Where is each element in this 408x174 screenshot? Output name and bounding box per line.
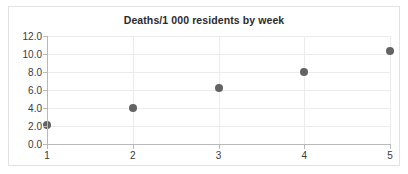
y-axis-tick-mark	[43, 90, 47, 91]
y-axis-tick-label: 8.0	[28, 67, 42, 78]
y-axis-tick-mark	[43, 126, 47, 127]
x-axis-tick-label: 3	[216, 150, 222, 161]
data-point	[215, 84, 223, 92]
data-point	[129, 104, 137, 112]
y-axis-tick-mark	[43, 108, 47, 109]
x-axis-tick-label: 5	[387, 150, 393, 161]
y-axis-tick-label: 6.0	[28, 85, 42, 96]
gridline-vertical	[304, 36, 305, 144]
gridline-vertical	[133, 36, 134, 144]
y-axis-tick-mark	[43, 36, 47, 37]
y-axis-tick-mark	[43, 72, 47, 73]
x-axis-tick-mark	[133, 145, 134, 149]
x-axis-tick-mark	[304, 145, 305, 149]
plot-area	[47, 36, 390, 144]
x-axis-tick-labels: 12345	[47, 150, 390, 164]
y-axis-tick-labels: 0.02.04.06.08.010.012.0	[0, 36, 42, 144]
y-axis-tick-mark	[43, 54, 47, 55]
x-axis-tick-mark	[219, 145, 220, 149]
x-axis-tick-mark	[47, 145, 48, 149]
x-axis-tick-label: 1	[44, 150, 50, 161]
x-axis-tick-label: 4	[301, 150, 307, 161]
chart-title: Deaths/1 000 residents by week	[0, 14, 408, 26]
data-point	[386, 47, 394, 55]
chart-screenshot: Deaths/1 000 residents by week 0.02.04.0…	[0, 0, 408, 174]
y-axis-tick-label: 4.0	[28, 103, 42, 114]
y-axis-tick-label: 2.0	[28, 121, 42, 132]
y-axis-tick-label: 12.0	[23, 31, 42, 42]
x-axis-tick-label: 2	[130, 150, 136, 161]
y-axis-tick-label: 10.0	[23, 49, 42, 60]
data-point	[300, 68, 308, 76]
x-axis-tick-mark	[390, 145, 391, 149]
y-axis-line	[47, 36, 48, 145]
y-axis-tick-label: 0.0	[28, 139, 42, 150]
